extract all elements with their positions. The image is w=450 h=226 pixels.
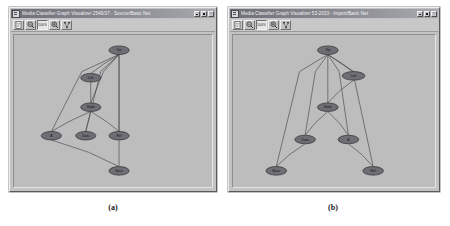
- graph-node[interactable]: Ref: [363, 167, 384, 176]
- figure-two-graph-windows: Media Classifier Graph Visualizer 2549/3…: [0, 0, 450, 226]
- zoom-in-button[interactable]: [49, 20, 60, 30]
- close-button[interactable]: ×: [431, 11, 437, 17]
- new-document-button[interactable]: [232, 20, 243, 30]
- graph-node[interactable]: Ref: [109, 131, 129, 140]
- graph-node-label: Data: [82, 134, 89, 138]
- close-button[interactable]: ×: [208, 11, 214, 17]
- window-title-pane-b: Media Classifier Graph Visualizer 53-203…: [241, 11, 415, 17]
- graph-node-label: Base: [273, 169, 281, 173]
- zoom-in-button[interactable]: [268, 20, 279, 30]
- layout-button[interactable]: [61, 20, 72, 30]
- window-pane-b[interactable]: Media Classifier Graph Visualizer 53-203…: [228, 7, 440, 192]
- graph-edge: [276, 54, 328, 166]
- toolbar-pane-a: 100%: [11, 19, 215, 32]
- window-title-pane-a: Media Classifier Graph Visualizer 2549/3…: [22, 11, 192, 17]
- graph-edge: [86, 111, 91, 131]
- graph-node[interactable]: Node: [318, 103, 339, 112]
- figure-caption-a: (a): [88, 203, 138, 212]
- graph-node[interactable]: Top: [318, 46, 339, 55]
- zoom-level-button[interactable]: 100%: [256, 20, 267, 30]
- graph-node-label: Ref: [371, 169, 376, 173]
- graph-edge: [91, 54, 119, 73]
- maximize-button[interactable]: [201, 11, 207, 17]
- graph-node-label: Base: [115, 169, 123, 173]
- graph-canvas-pane-a[interactable]: TopLinkNodeADataRefBase: [13, 34, 213, 188]
- magnifier-plus-icon: [270, 21, 278, 29]
- graph-node-label: Node: [87, 105, 95, 109]
- titlebar-pane-b[interactable]: Media Classifier Graph Visualizer 53-203…: [230, 9, 438, 18]
- graph-edge: [305, 54, 328, 135]
- graph-edge: [91, 111, 119, 131]
- magnifier-plus-icon: [51, 21, 59, 29]
- system-menu-icon[interactable]: [12, 10, 20, 18]
- magnifier-minus-icon: [27, 21, 35, 29]
- minimize-button[interactable]: [194, 11, 200, 17]
- layout-button[interactable]: [280, 20, 291, 30]
- graph-svg-pane-b: TopLinkNodeDataABaseRef: [233, 35, 435, 187]
- toolbar-separator: [73, 20, 76, 30]
- figure-caption-b: (b): [308, 203, 358, 212]
- graph-node[interactable]: Link: [342, 72, 365, 81]
- graph-node[interactable]: Top: [109, 46, 129, 55]
- graph-node-label: Ref: [117, 134, 122, 138]
- graph-node[interactable]: Link: [81, 73, 101, 82]
- graph-node-label: Node: [324, 106, 332, 110]
- graph-layout-icon: [63, 21, 71, 29]
- graph-edge: [276, 144, 305, 167]
- graph-canvas-pane-b[interactable]: TopLinkNodeDataABaseRef: [232, 34, 436, 188]
- minimize-button[interactable]: [417, 11, 423, 17]
- graph-edge: [51, 140, 119, 167]
- new-document-button[interactable]: [13, 20, 24, 30]
- graph-node-label: Top: [325, 49, 331, 53]
- graph-node[interactable]: Node: [81, 103, 101, 112]
- graph-node[interactable]: Data: [76, 131, 96, 140]
- graph-svg-pane-a: TopLinkNodeADataRefBase: [14, 35, 212, 187]
- graph-node[interactable]: Data: [295, 135, 316, 144]
- graph-node[interactable]: Base: [266, 167, 287, 176]
- graph-node[interactable]: A: [41, 131, 61, 140]
- titlebar-pane-a[interactable]: Media Classifier Graph Visualizer 2549/3…: [11, 9, 215, 18]
- toolbar-separator: [292, 20, 295, 30]
- zoom-level-button[interactable]: 100%: [37, 20, 48, 30]
- zoom-out-button[interactable]: [25, 20, 36, 30]
- graph-node-label: Link: [88, 76, 94, 80]
- graph-node-label: Link: [351, 74, 357, 78]
- window-pane-a[interactable]: Media Classifier Graph Visualizer 2549/3…: [9, 7, 217, 192]
- graph-node-label: Data: [302, 138, 309, 142]
- maximize-button[interactable]: [424, 11, 430, 17]
- toolbar-pane-b: 100%: [230, 19, 438, 32]
- zoom-out-button[interactable]: [244, 20, 255, 30]
- graph-node[interactable]: Base: [109, 167, 129, 176]
- zoom-level-label: 100%: [38, 23, 47, 27]
- magnifier-minus-icon: [246, 21, 254, 29]
- zoom-level-label: 100%: [257, 23, 266, 27]
- window-controls-pane-a: ×: [194, 11, 214, 17]
- close-icon: ×: [210, 12, 212, 15]
- graph-edge: [51, 111, 90, 131]
- close-icon: ×: [433, 12, 435, 15]
- graph-edge: [348, 144, 373, 167]
- graph-layout-icon: [282, 21, 290, 29]
- document-icon: [234, 21, 242, 29]
- graph-node[interactable]: A: [338, 135, 359, 144]
- document-icon: [15, 21, 23, 29]
- graph-node-label: Top: [116, 48, 121, 52]
- graph-nodes-pane-b: TopLinkNodeDataABaseRef: [266, 46, 383, 175]
- system-menu-icon[interactable]: [231, 10, 239, 18]
- graph-nodes-pane-a: TopLinkNodeADataRefBase: [41, 46, 129, 175]
- window-controls-pane-b: ×: [417, 11, 437, 17]
